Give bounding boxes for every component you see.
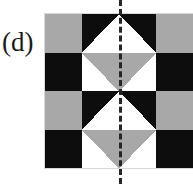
cell-r4c4 — [156, 130, 193, 169]
cell-r1c2-shape — [82, 14, 119, 53]
quilt-grid — [45, 14, 193, 168]
cell-r3c2-shape — [82, 91, 119, 130]
cell-r4c2 — [82, 130, 119, 169]
cell-r4c3 — [119, 130, 156, 169]
triangle-down-left-half-icon — [119, 130, 156, 169]
triangle-up-right-half-icon — [82, 14, 119, 53]
cell-r3c4 — [156, 91, 193, 130]
cell-r3c3-shape — [119, 91, 156, 130]
cell-r2c3-shape — [119, 53, 156, 92]
cell-r2c2-shape — [82, 53, 119, 92]
cell-r4c1 — [45, 130, 82, 169]
cell-r1c2 — [82, 14, 119, 53]
cell-r1c4 — [156, 14, 193, 53]
cell-r4c3-shape — [119, 130, 156, 169]
cell-r4c2-shape — [82, 130, 119, 169]
triangle-down-right-half-icon — [82, 130, 119, 169]
figure-panel: (d) — [0, 0, 193, 184]
cell-r2c2 — [82, 53, 119, 92]
triangle-up-left-half-icon — [119, 91, 156, 130]
cell-r2c1 — [45, 53, 82, 92]
cell-r1c1 — [45, 14, 82, 53]
cell-r3c2 — [82, 91, 119, 130]
cell-r2c4 — [156, 53, 193, 92]
triangle-down-right-half-icon — [82, 53, 119, 92]
panel-label: (d) — [2, 27, 33, 57]
triangle-up-right-half-icon — [82, 91, 119, 130]
cell-r3c1 — [45, 91, 82, 130]
cell-r1c3-shape — [119, 14, 156, 53]
cell-r2c3 — [119, 53, 156, 92]
cell-r3c3 — [119, 91, 156, 130]
triangle-up-left-half-icon — [119, 14, 156, 53]
cell-r1c3 — [119, 14, 156, 53]
triangle-down-left-half-icon — [119, 53, 156, 92]
